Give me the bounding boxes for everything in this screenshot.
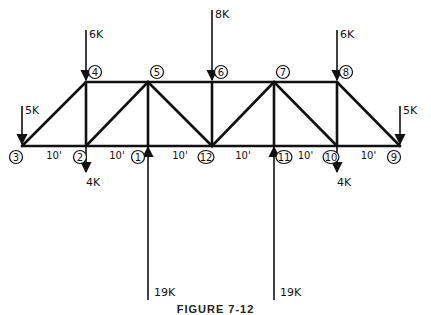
node-11: 11	[276, 151, 292, 164]
node-10: 10	[323, 151, 339, 164]
svg-text:4K: 4K	[337, 176, 352, 189]
svg-text:6K: 6K	[89, 28, 104, 41]
reaction-arrow-node-1: 19K	[148, 147, 176, 300]
load-arrow-node-9: 5K	[400, 104, 418, 144]
member-7-10	[274, 82, 337, 146]
dimension-label: 10'	[46, 150, 61, 161]
node-labels: 123456789101112	[10, 66, 401, 164]
svg-text:12: 12	[200, 152, 213, 163]
svg-text:8: 8	[343, 67, 349, 78]
svg-text:5K: 5K	[403, 104, 418, 117]
member-8-9	[337, 82, 400, 146]
svg-text:9: 9	[391, 152, 397, 163]
dimension-label: 10'	[361, 150, 376, 161]
svg-text:4: 4	[92, 67, 98, 78]
node-2: 2	[74, 151, 87, 164]
svg-text:6: 6	[218, 67, 224, 78]
load-arrow-node-10: 4K	[337, 146, 352, 189]
svg-text:7: 7	[280, 67, 286, 78]
node-1: 1	[132, 151, 145, 164]
node-12: 12	[198, 151, 214, 164]
figure-caption: FIGURE 7-12	[0, 303, 431, 315]
node-6: 6	[215, 66, 228, 79]
dimension-label: 10'	[109, 150, 124, 161]
svg-text:19K: 19K	[154, 286, 176, 299]
svg-text:5: 5	[154, 67, 160, 78]
node-8: 8	[340, 66, 353, 79]
svg-text:1: 1	[135, 152, 141, 163]
svg-text:3: 3	[13, 152, 19, 163]
svg-text:5K: 5K	[25, 104, 40, 117]
svg-text:19K: 19K	[280, 286, 302, 299]
svg-text:2: 2	[77, 152, 83, 163]
reaction-arrow-node-11: 19K	[274, 147, 302, 300]
truss-members	[22, 82, 400, 146]
load-arrow-node-2: 4K	[86, 146, 101, 189]
node-4: 4	[89, 66, 102, 79]
svg-text:11: 11	[278, 152, 291, 163]
svg-text:6K: 6K	[340, 28, 355, 41]
dimension-label: 10'	[235, 150, 250, 161]
svg-text:8K: 8K	[215, 8, 230, 21]
member-12-7	[212, 82, 274, 146]
member-2-5	[86, 82, 148, 146]
svg-text:4K: 4K	[86, 176, 101, 189]
node-5: 5	[151, 66, 164, 79]
dimension-label: 10'	[298, 150, 313, 161]
svg-text:10: 10	[325, 152, 338, 163]
member-5-12	[148, 82, 212, 146]
node-9: 9	[388, 151, 401, 164]
node-3: 3	[10, 151, 23, 164]
support-reactions: 19K19K	[148, 147, 302, 300]
dimension-label: 10'	[172, 150, 187, 161]
node-7: 7	[277, 66, 290, 79]
